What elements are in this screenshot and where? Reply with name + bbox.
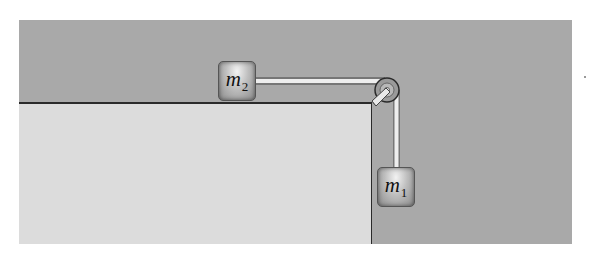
- block-m1-label: m1: [385, 173, 408, 201]
- speck: [584, 76, 586, 78]
- rope-and-pulley: [0, 0, 590, 255]
- block-m1: m1: [377, 167, 415, 207]
- block-m2-label: m2: [226, 67, 249, 95]
- block-m2: m2: [218, 61, 256, 101]
